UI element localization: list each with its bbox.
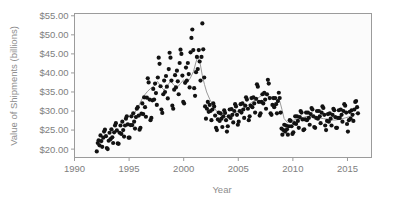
data-point (151, 87, 155, 91)
x-tick-label: 2005 (228, 163, 249, 174)
data-point (122, 134, 126, 138)
y-tick-label: $55.00 (39, 10, 68, 21)
data-point (192, 86, 196, 90)
x-tick-label: 1995 (119, 163, 140, 174)
data-point (156, 75, 160, 79)
scatter-chart: $20.00$25.00$30.00$35.00$40.00$45.00$50.… (0, 0, 394, 209)
data-point (147, 80, 151, 84)
y-axis-title: Value of Shipments (billions) (8, 26, 19, 146)
data-point (258, 111, 262, 115)
data-point (127, 136, 131, 140)
y-tick-label: $45.00 (39, 48, 68, 59)
data-point (299, 110, 303, 114)
data-point (321, 106, 325, 110)
data-point (322, 113, 326, 117)
data-point (198, 78, 202, 82)
data-point (278, 96, 282, 100)
data-point (302, 127, 306, 131)
data-point (167, 67, 171, 71)
data-point (212, 104, 216, 108)
data-point (354, 99, 358, 103)
data-point (187, 85, 191, 89)
data-point (175, 69, 179, 73)
data-point (157, 62, 161, 66)
x-tick-label: 1990 (64, 163, 85, 174)
data-point (155, 103, 159, 107)
plot-area-background (75, 14, 372, 158)
data-point (226, 124, 230, 128)
y-tick-label: $30.00 (39, 105, 68, 116)
data-point (110, 135, 114, 139)
x-axis-title: Year (212, 184, 231, 195)
data-point (121, 128, 125, 132)
data-point (296, 119, 300, 123)
data-point (111, 141, 115, 145)
data-point (242, 116, 246, 120)
data-point (168, 56, 172, 60)
data-point (185, 78, 189, 82)
y-tick-label: $50.00 (39, 29, 68, 40)
data-point (157, 56, 161, 60)
data-point (191, 48, 195, 52)
data-point (201, 47, 205, 51)
data-point (339, 113, 343, 117)
data-point (277, 91, 281, 95)
data-point (144, 115, 148, 119)
data-point (215, 128, 219, 132)
data-point (310, 107, 314, 111)
data-point (136, 105, 140, 109)
data-point (118, 123, 122, 127)
data-point (178, 61, 182, 65)
data-point (140, 101, 144, 105)
x-tick-label: 2015 (337, 163, 358, 174)
data-point (178, 48, 182, 52)
data-point (100, 145, 104, 149)
data-point (332, 108, 336, 112)
data-point (265, 92, 269, 96)
data-point (313, 126, 317, 130)
y-tick-label: $40.00 (39, 67, 68, 78)
data-point (267, 82, 271, 86)
data-point (117, 142, 121, 146)
data-point (307, 116, 311, 120)
data-point (345, 122, 349, 126)
data-point (138, 126, 142, 130)
data-point (173, 73, 177, 77)
data-point (176, 79, 180, 83)
data-point (241, 107, 245, 111)
data-point (319, 121, 323, 125)
data-point (196, 67, 200, 71)
data-point (235, 113, 239, 117)
data-point (248, 114, 252, 118)
data-point (291, 130, 295, 134)
data-point (308, 123, 312, 127)
data-point (104, 134, 108, 138)
data-point (340, 120, 344, 124)
y-tick-label: $20.00 (39, 144, 68, 155)
data-point (247, 118, 251, 122)
data-point (106, 147, 110, 151)
data-point (323, 123, 327, 127)
data-point (245, 98, 249, 102)
data-point (329, 117, 333, 121)
data-point (232, 109, 236, 113)
data-point (351, 119, 355, 123)
data-point (230, 113, 234, 117)
data-point (114, 121, 118, 125)
x-tick-label: 2010 (282, 163, 303, 174)
data-point (132, 120, 136, 124)
data-point (184, 66, 188, 70)
data-point (174, 85, 178, 89)
data-point (356, 111, 360, 115)
data-point (237, 120, 241, 124)
data-point (225, 130, 229, 134)
data-point (297, 126, 301, 130)
data-point (264, 107, 268, 111)
data-point (286, 133, 290, 137)
data-point (231, 120, 235, 124)
y-tick-label: $35.00 (39, 86, 68, 97)
data-point (186, 61, 190, 65)
data-point (169, 78, 173, 82)
data-point (355, 105, 359, 109)
data-point (269, 113, 273, 117)
